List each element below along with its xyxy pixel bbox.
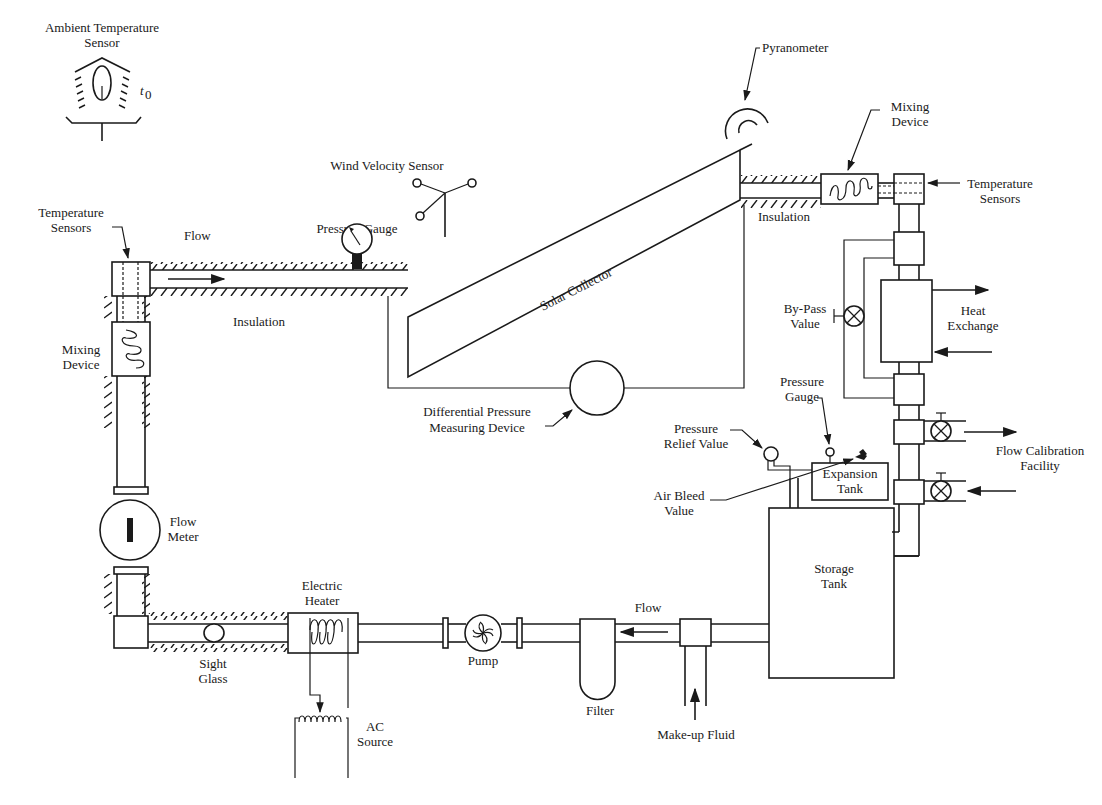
expansion-tank-label-1: Expansion: [823, 466, 878, 481]
mixing-device-left-label-1: Mixing: [62, 342, 101, 357]
pyranometer-label: Pyranometer: [762, 40, 829, 55]
flow-calibration-junction-1: [894, 420, 924, 444]
diff-pressure-label-1: Differential Pressure: [423, 404, 531, 419]
temperature-sensors-left: [112, 262, 150, 296]
flow-meter-indicator-icon: [127, 518, 133, 542]
temp-sensors-left-label-1: Temperature: [38, 205, 104, 220]
electric-heater-label-2: Heater: [305, 593, 340, 608]
air-bleed-valve-icon[interactable]: [855, 449, 867, 460]
flange-upper: [114, 487, 148, 494]
collector-outlet-pipe: Insulation Mixing Device Temperature Sen…: [740, 99, 1033, 224]
heat-exchange-label-1: Heat: [961, 303, 986, 318]
flow-calibration-label-2: Facility: [1020, 458, 1060, 473]
mixing-device-left: [112, 322, 150, 376]
flow-meter-label-1: Flow: [170, 514, 197, 529]
pressure-relief-label-2: Relief Value: [664, 436, 729, 451]
pyranometer: Pyranometer: [725, 40, 829, 139]
flow-calibration-junction-2: [894, 480, 924, 504]
sight-glass-label-1: Sight: [199, 656, 227, 671]
air-bleed-label-1: Air Bleed: [654, 488, 705, 503]
storage-tank-label-1: Storage: [814, 561, 854, 576]
sight-glass: [204, 624, 224, 642]
ambient-sensor-label-2: Sensor: [84, 35, 120, 50]
ac-source: AC Source: [295, 716, 393, 778]
pump-flange-right: [517, 618, 522, 648]
insulation-top-label: Insulation: [758, 209, 810, 224]
pressure-relief-valve[interactable]: [764, 447, 778, 461]
ac-coil-icon: [299, 716, 341, 722]
tank-pressure-gauge: [826, 448, 834, 456]
ambient-sensor-label-1: Ambient Temperature: [45, 20, 159, 35]
left-column: Mixing Device Flow Meter: [62, 296, 199, 648]
corner-elbow: [114, 616, 148, 648]
solar-collector: Solar Collector: [408, 144, 752, 377]
temperature-sensors-right: [894, 174, 924, 204]
solar-collector-test-loop-diagram: Ambient Temperature Sensor t 0 Wind Velo…: [0, 0, 1102, 805]
bypass-junction-bottom: [894, 374, 924, 405]
ambient-temperature-sensor: Ambient Temperature Sensor t 0: [45, 20, 159, 141]
differential-pressure-device: [570, 361, 624, 415]
filter: [580, 619, 615, 700]
ambient-subscript: 0: [145, 87, 152, 102]
flow-calibration-label-1: Flow Calibration: [996, 443, 1085, 458]
mixing-device-left-label-2: Device: [63, 357, 100, 372]
heat-exchanger: [881, 280, 932, 362]
wind-sensor-label: Wind Velocity Sensor: [330, 158, 444, 173]
pressure-relief-label-1: Pressure: [674, 421, 718, 436]
mixing-device-top-label-2: Device: [892, 114, 929, 129]
pump-label: Pump: [468, 653, 498, 668]
right-column: Heat Exchange By-Pass Value Flow Calibra…: [784, 204, 1085, 556]
bottom-pipe: Sight Glass Electric Heater AC Source: [148, 578, 769, 778]
electric-heater-label-1: Electric: [302, 578, 343, 593]
temp-sensors-right-label-2: Sensors: [980, 191, 1020, 206]
bypass-valve-label-2: Value: [790, 316, 820, 331]
pump-flange-left: [443, 618, 448, 648]
solar-collector-label: Solar Collector: [537, 264, 615, 314]
storage-tank: [769, 508, 894, 678]
flow-bottom-label: Flow: [635, 600, 662, 615]
pressure-gauge-icon: [342, 224, 372, 254]
ac-source-label-2: Source: [357, 734, 393, 749]
ambient-symbol: t: [140, 83, 144, 98]
heat-exchange-label-2: Exchange: [947, 318, 998, 333]
flow-meter-label-2: Meter: [167, 529, 199, 544]
flow-top-label: Flow: [184, 228, 211, 243]
pressure-gauge-tank-label-2: Gauge: [785, 389, 819, 404]
make-up-fluid-junction: [680, 619, 711, 646]
makeup-fluid-label: Make-up Fluid: [657, 727, 735, 742]
ac-source-label-1: AC: [366, 719, 384, 734]
insulation-left-label: Insulation: [233, 314, 285, 329]
bypass-junction-top: [894, 232, 924, 265]
bypass-valve-label-1: By-Pass: [784, 301, 827, 316]
flange-lower: [114, 567, 148, 574]
mixing-device-top-label-1: Mixing: [891, 99, 930, 114]
pressure-gauge-tank-label-1: Pressure: [780, 374, 824, 389]
sight-glass-label-2: Glass: [199, 671, 228, 686]
temp-sensors-right-label-1: Temperature: [967, 176, 1033, 191]
expansion-tank-label-2: Tank: [837, 481, 863, 496]
diff-pressure-label-2: Measuring Device: [429, 420, 525, 435]
air-bleed-label-2: Value: [664, 503, 694, 518]
temp-sensors-left-label-2: Sensors: [51, 220, 91, 235]
filter-label: Filter: [586, 703, 615, 718]
storage-tank-label-2: Tank: [821, 576, 847, 591]
